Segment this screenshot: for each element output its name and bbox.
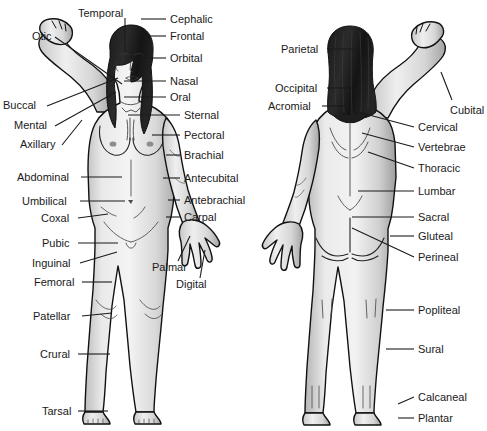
leader-line-patellar (82, 313, 112, 316)
leader-line-cervical (358, 112, 414, 127)
region-label-calcaneal: Calcaneal (418, 392, 467, 403)
region-label-palmar: Palmar (152, 262, 187, 273)
leader-line-digital (200, 250, 205, 278)
region-label-popliteal: Popliteal (418, 305, 460, 316)
region-label-axillary: Axillary (20, 139, 55, 150)
region-label-coxal: Coxal (41, 213, 69, 224)
region-label-antecubital: Antecubital (184, 173, 238, 184)
leader-line-thoracic (368, 152, 414, 168)
leader-line-mental (55, 92, 116, 126)
region-label-crural: Crural (40, 349, 70, 360)
region-label-lumbar: Lumbar (418, 186, 455, 197)
region-label-frontal: Frontal (170, 31, 204, 42)
region-label-nasal: Nasal (170, 76, 198, 87)
region-label-orbital: Orbital (170, 53, 202, 64)
region-label-plantar: Plantar (418, 413, 453, 424)
region-label-cubital: Cubital (450, 105, 484, 116)
anatomy-diagram: TemporalOticBuccalMentalAxillaryAbdomina… (0, 0, 487, 431)
region-label-temporal: Temporal (78, 8, 123, 19)
region-label-sural: Sural (418, 344, 444, 355)
region-label-sternal: Sternal (184, 110, 219, 121)
leader-line-axillary (62, 120, 82, 145)
leader-line-otic (55, 37, 122, 84)
leader-line-cubital (441, 72, 452, 100)
leader-line-perineal (352, 228, 414, 257)
region-label-tarsal: Tarsal (42, 406, 71, 417)
leader-line-vertebrae (362, 133, 414, 147)
leader-line-coxal (78, 214, 108, 218)
region-label-vertebrae: Vertebrae (418, 142, 466, 153)
region-label-femoral: Femoral (34, 277, 74, 288)
region-label-pectoral: Pectoral (184, 130, 224, 141)
region-label-sacral: Sacral (418, 212, 449, 223)
region-label-pubic: Pubic (42, 238, 70, 249)
region-label-cephalic: Cephalic (170, 14, 213, 25)
region-label-occipital: Occipital (275, 83, 317, 94)
region-label-carpal: Carpal (184, 212, 216, 223)
region-label-perineal: Perineal (418, 252, 458, 263)
region-label-gluteal: Gluteal (418, 231, 453, 242)
region-label-thoracic: Thoracic (418, 163, 460, 174)
region-label-patellar: Patellar (33, 311, 70, 322)
region-label-umbilical: Umbilical (22, 196, 67, 207)
leader-line-buccal (47, 78, 118, 106)
region-label-parietal: Parietal (281, 44, 318, 55)
region-label-oral: Oral (170, 92, 191, 103)
region-label-abdominal: Abdominal (17, 172, 69, 183)
region-label-mental: Mental (14, 120, 47, 131)
region-label-inguinal: Inguinal (32, 258, 71, 269)
region-label-brachial: Brachial (184, 150, 224, 161)
region-label-acromial: Acromial (268, 101, 311, 112)
leader-line-palmar (178, 236, 190, 261)
leader-lines-svg (0, 0, 487, 431)
region-label-buccal: Buccal (3, 100, 36, 111)
region-label-antebrachial: Antebrachial (184, 195, 245, 206)
leader-line-inguinal (80, 252, 117, 263)
leader-line-calcaneal (398, 397, 414, 404)
region-label-cervical: Cervical (418, 122, 458, 133)
region-label-otic: Otic (32, 31, 52, 42)
region-label-digital: Digital (176, 279, 207, 290)
